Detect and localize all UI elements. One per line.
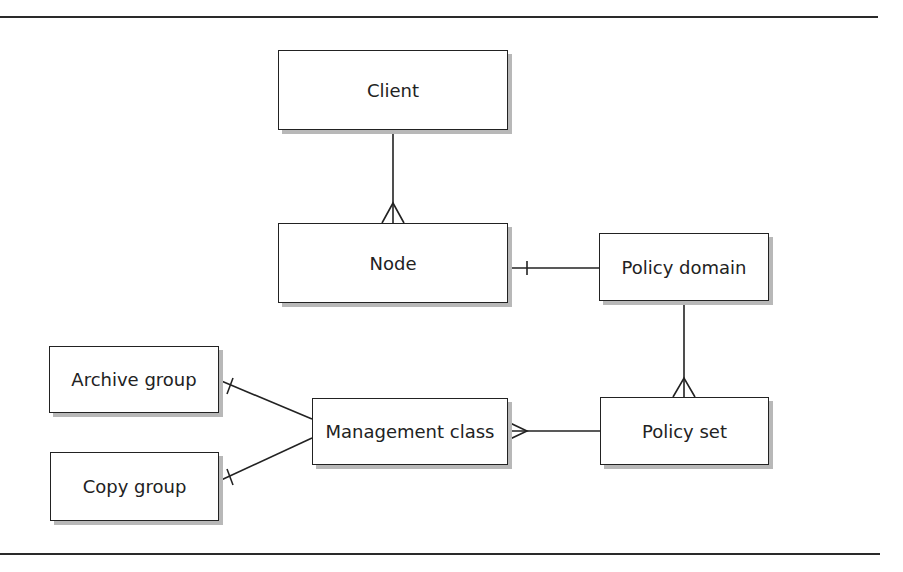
entity-label: Archive group: [71, 369, 196, 390]
entity-label: Copy group: [83, 476, 187, 497]
entity-label: Node: [370, 253, 417, 274]
entity-client: Client: [278, 50, 508, 130]
entity-label: Policy set: [642, 421, 727, 442]
entity-label: Management class: [326, 421, 495, 442]
entity-label: Client: [367, 80, 419, 101]
copy-group-management-class-line: [219, 438, 312, 481]
archive-group-management-class-line: [219, 380, 312, 419]
entity-copy-group: Copy group: [50, 452, 219, 521]
entity-archive-group: Archive group: [49, 346, 219, 413]
entity-policy-domain: Policy domain: [599, 233, 769, 301]
entity-management-class: Management class: [312, 398, 508, 465]
entity-policy-set: Policy set: [600, 397, 769, 465]
entity-label: Policy domain: [622, 257, 747, 278]
entity-node: Node: [278, 223, 508, 303]
